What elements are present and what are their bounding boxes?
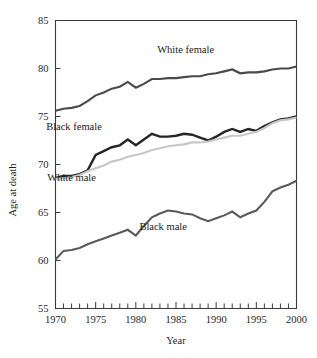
x-axis-ticks (56, 302, 297, 309)
line-chart: 55606570758085 1970197519801985199019952… (0, 0, 317, 358)
series-label-black-male: Black male (139, 221, 187, 232)
y-tick-label: 65 (38, 207, 49, 218)
y-tick-label: 85 (38, 15, 49, 26)
series-label-black-female: Black female (46, 121, 102, 132)
y-tick-label: 70 (38, 159, 49, 170)
series-line-white-female (56, 67, 297, 111)
y-axis-tick-labels: 55606570758085 (38, 15, 49, 314)
y-tick-label: 60 (38, 255, 49, 266)
x-tick-label: 1990 (206, 314, 227, 325)
y-axis-title: Age at death (7, 163, 18, 217)
x-tick-label: 1985 (166, 314, 187, 325)
chart-container: 55606570758085 1970197519801985199019952… (0, 0, 317, 358)
series-annotations: White femaleBlack femaleWhite maleBlack … (46, 44, 214, 232)
y-axis-ticks (56, 69, 61, 261)
y-tick-label: 80 (38, 63, 49, 74)
series-label-white-female: White female (157, 44, 214, 55)
x-tick-label: 1975 (85, 314, 106, 325)
x-tick-label: 1970 (45, 314, 66, 325)
x-tick-label: 1995 (246, 314, 267, 325)
x-axis-tick-labels: 1970197519801985199019952000 (45, 314, 307, 325)
x-axis-title: Year (166, 335, 186, 346)
series-label-white-male: White male (47, 172, 96, 183)
x-tick-label: 2000 (286, 314, 307, 325)
x-tick-label: 1980 (125, 314, 146, 325)
